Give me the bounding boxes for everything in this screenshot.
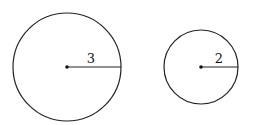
large-circle-center — [65, 65, 69, 69]
circles-diagram: 3 2 — [0, 0, 253, 125]
large-circle-radius-label: 3 — [87, 51, 95, 66]
small-circle-radius-label: 2 — [215, 51, 223, 66]
large-circle-group: 3 — [13, 13, 121, 121]
small-circle-group: 2 — [164, 30, 238, 104]
small-circle-center — [199, 65, 203, 69]
